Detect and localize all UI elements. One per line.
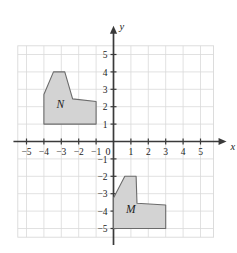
x-tick-label: −2 — [74, 147, 84, 157]
shape-label-m: M — [125, 203, 137, 215]
x-tick-label: −4 — [39, 147, 49, 157]
x-tick-label: 1 — [129, 147, 134, 157]
x-axis-arrowhead — [219, 138, 227, 145]
axis-name-labels: xy — [119, 21, 236, 152]
y-tick-label: −2 — [97, 172, 107, 182]
x-tick-label: −3 — [56, 147, 66, 157]
x-tick-label: 5 — [198, 147, 203, 157]
y-tick-label: 1 — [103, 120, 108, 130]
y-tick-label: −3 — [97, 189, 107, 199]
origin-label: 0 — [106, 146, 111, 157]
coordinate-grid-svg: −5−4−3−2−11234554321−1−2−3−4−50 NM xy — [0, 0, 237, 253]
shape-polygon-m — [114, 176, 166, 228]
shape-label-n: N — [56, 98, 66, 110]
x-axis-name-label: x — [230, 141, 236, 152]
coordinate-plane-figure: −5−4−3−2−11234554321−1−2−3−4−50 NM xy — [0, 0, 237, 253]
shape-polygon-n — [44, 72, 96, 124]
y-axis-name-label: y — [119, 21, 125, 32]
y-tick-label: −5 — [97, 224, 107, 234]
x-tick-label: 4 — [181, 147, 186, 157]
x-tick-label: −5 — [21, 147, 31, 157]
y-tick-label: 2 — [103, 102, 108, 112]
y-tick-label: 5 — [103, 50, 108, 60]
x-tick-label: 2 — [146, 147, 151, 157]
y-tick-label: −4 — [97, 207, 107, 217]
y-axis-arrowhead — [110, 26, 117, 34]
x-tick-label: 3 — [163, 147, 168, 157]
y-tick-label: 3 — [103, 85, 108, 95]
y-tick-label: 4 — [103, 68, 108, 78]
